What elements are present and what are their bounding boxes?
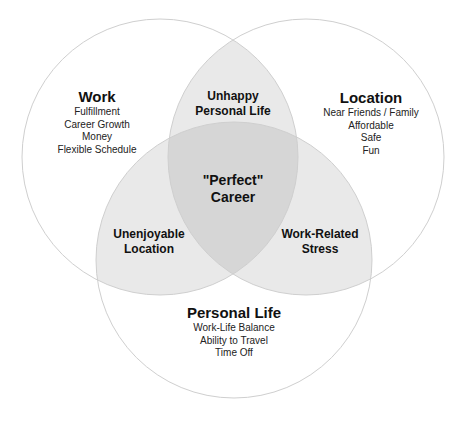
work-item: Flexible Schedule bbox=[58, 144, 137, 157]
personal-life-title: Personal Life bbox=[187, 304, 281, 322]
personal-life-item: Ability to Travel bbox=[187, 335, 281, 348]
center-line: "Perfect" bbox=[203, 172, 264, 189]
overlap-line: Location bbox=[113, 242, 184, 257]
location-item: Near Friends / Family bbox=[323, 107, 419, 120]
personal-life-item: Work-Life Balance bbox=[187, 322, 281, 335]
overlap-line: Unenjoyable bbox=[113, 227, 184, 242]
work-item: Career Growth bbox=[58, 119, 137, 132]
overlap-location-personal-label: Work-Related Stress bbox=[281, 227, 358, 257]
work-label-group: Work Fulfillment Career Growth Money Fle… bbox=[58, 88, 137, 156]
location-item: Fun bbox=[323, 145, 419, 158]
perfect-career-label: "Perfect" Career bbox=[203, 172, 264, 206]
location-item: Safe bbox=[323, 132, 419, 145]
work-title: Work bbox=[58, 88, 137, 106]
venn-diagram bbox=[0, 0, 463, 424]
overlap-line: Work-Related bbox=[281, 227, 358, 242]
overlap-work-personal-label: Unenjoyable Location bbox=[113, 227, 184, 257]
personal-life-item: Time Off bbox=[187, 347, 281, 360]
work-item: Money bbox=[58, 131, 137, 144]
center-line: Career bbox=[203, 189, 264, 206]
location-item: Affordable bbox=[323, 120, 419, 133]
location-title: Location bbox=[323, 89, 419, 107]
overlap-line: Personal Life bbox=[195, 104, 270, 119]
overlap-line: Unhappy bbox=[195, 89, 270, 104]
location-label-group: Location Near Friends / Family Affordabl… bbox=[323, 89, 419, 157]
personal-life-label-group: Personal Life Work-Life Balance Ability … bbox=[187, 304, 281, 360]
overlap-work-location-label: Unhappy Personal Life bbox=[195, 89, 270, 119]
overlap-line: Stress bbox=[281, 242, 358, 257]
work-item: Fulfillment bbox=[58, 106, 137, 119]
